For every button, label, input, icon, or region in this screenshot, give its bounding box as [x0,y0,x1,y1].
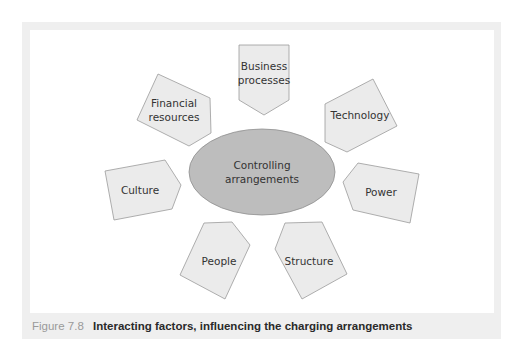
factor-label: Business [241,60,287,72]
factor-technology: Technology [325,79,397,152]
center-node: Controlling arrangements [189,129,335,215]
center-label-line1: Controlling [233,159,290,171]
factor-people: People [180,222,250,299]
factor-label: People [202,255,237,267]
factor-power: Power [343,163,419,223]
factor-structure: Structure [275,222,347,299]
factor-label: Structure [285,255,334,267]
factor-label: Power [365,186,397,198]
factor-business-processes: Business processes [238,45,290,115]
center-label-line2: arrangements [225,173,299,185]
factor-label: Culture [121,184,159,196]
factor-label: resources [149,111,200,123]
diagram-svg: Controlling arrangements Business proces… [0,0,521,353]
factor-label: Technology [330,109,390,121]
factor-label: Financial [151,97,197,109]
factor-culture: Culture [105,160,181,220]
factor-financial-resources: Financial resources [137,74,211,146]
factor-label: processes [238,74,290,86]
